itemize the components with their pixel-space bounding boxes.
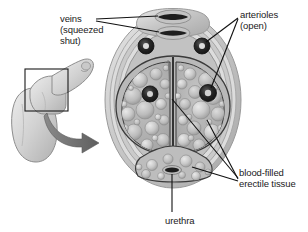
label-erectile-tissue: blood-filled erectile tissue [239,167,296,189]
figure-canvas [0,0,308,232]
label-veins: veins (squeezed shut) [60,13,103,46]
label-arterioles: arterioles (open) [240,9,278,31]
anatomy-figure: veins (squeezed shut) arterioles (open) … [0,0,308,232]
urethral-lumen [165,167,179,172]
arteriole-deep-right [200,85,217,102]
arteriole-deep-left [142,86,158,102]
cross-section [105,9,241,189]
arteriole-upper-left [138,38,154,54]
label-urethra: urethra [165,215,194,226]
